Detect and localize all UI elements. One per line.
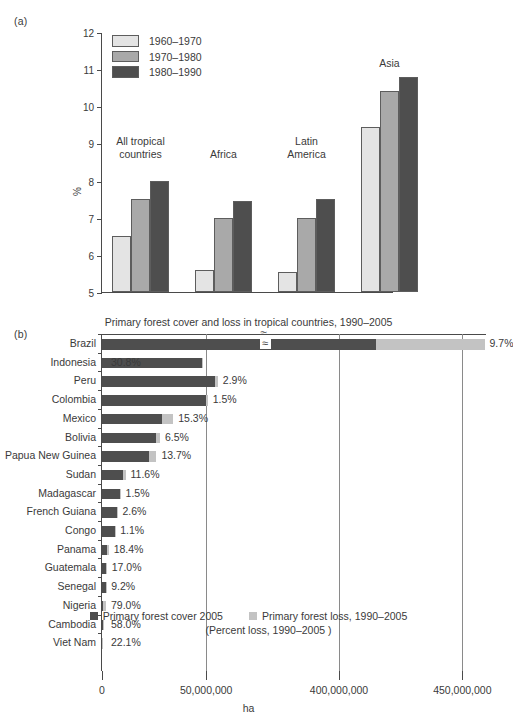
chart-a-bar [361, 127, 380, 292]
chart-b-percent-label: 9.2% [111, 580, 135, 592]
chart-b-bar-cover [102, 376, 215, 387]
chart-b-legend-label: Primary forest cover 2005 [103, 610, 223, 622]
chart-b-y-tick [98, 558, 102, 559]
chart-a-y-tick [97, 33, 102, 34]
chart-b-y-tick [98, 371, 102, 372]
chart-b-x-tick-label: 450,000,000 [433, 684, 491, 696]
chart-b-legend-swatch [90, 612, 98, 620]
chart-b-bar-loss [156, 433, 160, 444]
chart-a-bar [380, 91, 399, 292]
chart-b-row: Peru2.9% [102, 372, 487, 391]
chart-a-group-label: Africa [210, 148, 237, 161]
chart-b-bar-loss [115, 526, 116, 537]
chart-a-y-tick-label: 5 [88, 288, 94, 299]
chart-a-bar [399, 77, 418, 292]
chart-b-y-tick [98, 577, 102, 578]
chart-b-bar-cover [102, 489, 120, 500]
chart-b-y-tick [98, 484, 102, 485]
chart-b-category-label: Senegal [57, 580, 96, 592]
chart-b-x-axis-title: ha [0, 702, 497, 714]
chart-b-legend-label: Primary forest loss, 1990–2005 [262, 610, 407, 622]
chart-b-bar-loss [162, 414, 173, 425]
chart-b-bar-cover [102, 507, 117, 518]
chart-b-title: Primary forest cover and loss in tropica… [0, 316, 497, 328]
chart-b-y-tick [98, 334, 102, 335]
chart-b-legend-item: Primary forest loss, 1990–2005 [249, 610, 407, 622]
chart-a-bar [150, 181, 169, 292]
chart-b-x-tick [102, 671, 103, 680]
chart-b-bar-loss [106, 563, 107, 574]
chart-b-row: Senegal9.2% [102, 578, 487, 597]
chart-b-bar-loss [376, 339, 485, 350]
chart-b-y-tick [98, 390, 102, 391]
chart-b-category-label: French Guiana [27, 505, 96, 517]
chart-panel-a: (a) % 56789101112All tropical countriesA… [0, 0, 497, 310]
chart-a-y-tick-label: 6 [88, 250, 94, 261]
chart-a-bar [278, 272, 297, 292]
chart-a-bar [214, 218, 233, 292]
chart-b-percent-label: 30.8% [111, 356, 141, 368]
panel-a-letter: (a) [14, 15, 27, 27]
chart-a-y-tick-label: 11 [84, 65, 94, 76]
chart-b-category-label: Congo [65, 524, 96, 536]
chart-b-row: Colombia1.5% [102, 391, 487, 410]
chart-b-percent-label: 13.7% [161, 449, 191, 461]
chart-a-legend: 1960–19701970–19801980–1990 [112, 34, 202, 81]
chart-b-bar-loss [106, 582, 107, 593]
chart-b-category-label: Brazil [70, 337, 96, 349]
chart-b-bar-cover [102, 414, 162, 425]
chart-b-row: Brazil9.7% [102, 335, 487, 354]
chart-b-row: Sudan11.6% [102, 466, 487, 485]
chart-b-row: Panama18.4% [102, 541, 487, 560]
chart-b-percent-label: 18.4% [114, 543, 144, 555]
chart-b-percent-label: 2.6% [122, 505, 146, 517]
chart-b-percent-label: 1.5% [213, 393, 237, 405]
chart-b-y-tick [98, 409, 102, 410]
chart-b-row: Viet Nam22.1% [102, 634, 487, 653]
chart-a-legend-swatch [112, 66, 139, 78]
chart-a-group-label: Asia [379, 57, 399, 70]
chart-b-y-tick [98, 465, 102, 466]
chart-a-y-tick-label: 9 [88, 139, 94, 150]
chart-b-percent-label: 6.5% [165, 431, 189, 443]
chart-b-row: Madagascar1.5% [102, 485, 487, 504]
chart-b-percent-label: 22.1% [111, 636, 141, 648]
chart-b-bar-cover [102, 470, 123, 481]
chart-b-category-label: Panama [57, 543, 96, 555]
chart-b-row: Congo1.1% [102, 522, 487, 541]
chart-b-y-tick [98, 502, 102, 503]
chart-a-legend-label: 1970–1980 [149, 51, 202, 63]
chart-b-y-tick [98, 428, 102, 429]
chart-b-x-tick [339, 671, 340, 680]
chart-a-y-tick-label: 8 [88, 176, 94, 187]
chart-a-group-label: Latin America [287, 135, 326, 161]
chart-b-percent-label: 9.7% [490, 337, 513, 349]
chart-b-y-tick [98, 521, 102, 522]
chart-b-category-label: Colombia [52, 393, 96, 405]
chart-a-y-tick-label: 12 [83, 28, 94, 39]
chart-a-y-tick [97, 70, 102, 71]
chart-b-category-label: Indonesia [50, 356, 96, 368]
chart-b-row: Bolivia6.5% [102, 429, 487, 448]
chart-b-y-tick [98, 446, 102, 447]
chart-b-x-tick [462, 671, 463, 680]
chart-a-y-tick [97, 107, 102, 108]
chart-b-row: Papua New Guinea13.7% [102, 447, 487, 466]
chart-b-y-tick [98, 540, 102, 541]
chart-b-category-label: Madagascar [38, 487, 96, 499]
chart-b-legend-swatch [249, 612, 257, 620]
chart-a-bar [195, 270, 214, 292]
chart-b-legend: Primary forest cover 2005Primary forest … [0, 610, 497, 636]
chart-b-bar-cover [102, 433, 156, 444]
chart-b-category-label: Viet Nam [53, 636, 96, 648]
chart-a-y-tick [97, 144, 102, 145]
chart-a-y-tick-label: 7 [88, 213, 94, 224]
chart-b-percent-label: 2.9% [223, 374, 247, 386]
chart-b-percent-label: 1.1% [120, 524, 144, 536]
chart-b-bar-loss [206, 395, 208, 406]
chart-b-bar-loss [149, 451, 157, 462]
chart-a-y-tick-label: 10 [83, 102, 94, 113]
chart-b-y-tick [98, 353, 102, 354]
chart-b-category-label: Papua New Guinea [5, 449, 96, 461]
chart-b-bar-loss [117, 507, 118, 518]
